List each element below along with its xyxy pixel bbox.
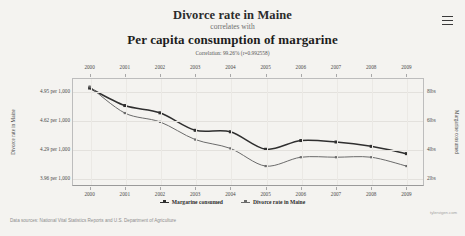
y-axis-right-labels: 8lbs6lbs4lbs2lbs bbox=[427, 78, 451, 186]
x-axis-tick bbox=[301, 74, 302, 77]
x-axis-tick bbox=[160, 74, 161, 77]
x-axis-label: 2003 bbox=[190, 64, 200, 70]
legend-label: Margarine consumed bbox=[172, 199, 223, 205]
x-axis-label: 2002 bbox=[155, 64, 165, 70]
x-axis-label: 2000 bbox=[84, 64, 94, 70]
x-axis-tick bbox=[125, 74, 126, 77]
x-axis-tick bbox=[125, 187, 126, 190]
chart-page: Divorce rate in Maine correlates with Pe… bbox=[0, 0, 465, 236]
x-axis-tick bbox=[301, 187, 302, 190]
x-axis-tick bbox=[195, 187, 196, 190]
y-axis-left-tick-label: 4.29 per 1,000 bbox=[40, 146, 70, 152]
chart-title-block: Divorce rate in Maine correlates with Pe… bbox=[0, 8, 465, 57]
site-brand-label: tylervigen.com bbox=[430, 210, 457, 215]
chart-title-connector: correlates with bbox=[0, 22, 465, 32]
x-axis-tick bbox=[160, 187, 161, 190]
y-axis-left-tick-label: 4.95 per 1,000 bbox=[40, 88, 70, 94]
x-axis-label: 2005 bbox=[260, 64, 270, 70]
legend-dot bbox=[163, 200, 166, 203]
x-axis-label: 2009 bbox=[401, 191, 411, 197]
x-axis-tick bbox=[371, 187, 372, 190]
gridline-vertical bbox=[161, 79, 162, 185]
x-axis-tick bbox=[230, 74, 231, 77]
legend-label: Divorce rate in Maine bbox=[253, 199, 305, 205]
legend-item[interactable]: Margarine consumed bbox=[160, 199, 223, 205]
data-source-note: Data sources: National Vital Statistics … bbox=[10, 218, 176, 223]
x-axis-label: 2008 bbox=[366, 64, 376, 70]
x-axis-tick bbox=[371, 74, 372, 77]
x-axis-label: 2000 bbox=[84, 191, 94, 197]
chart-title-secondary: Per capita consumption of margarine bbox=[0, 32, 465, 47]
x-axis-label: 2003 bbox=[190, 191, 200, 197]
gridline-vertical bbox=[267, 79, 268, 185]
x-axis-top: 2000200120022003200420052006200720082009 bbox=[72, 64, 424, 78]
x-axis-label: 2004 bbox=[225, 191, 235, 197]
gridline-vertical bbox=[231, 79, 232, 185]
gridline-vertical bbox=[196, 79, 197, 185]
x-axis-tick bbox=[406, 187, 407, 190]
x-axis-label: 2007 bbox=[331, 191, 341, 197]
x-axis-label: 2009 bbox=[401, 64, 411, 70]
plot-area bbox=[72, 78, 424, 186]
y-axis-right-tick-label: 6lbs bbox=[427, 117, 436, 123]
x-axis-tick bbox=[195, 74, 196, 77]
y-axis-left-title: Divorce rate in Maine bbox=[8, 78, 18, 186]
y-axis-left-title-text: Divorce rate in Maine bbox=[10, 109, 16, 155]
x-axis-tick bbox=[90, 74, 91, 77]
y-axis-right-tick-label: 4lbs bbox=[427, 146, 436, 152]
x-axis-label: 2005 bbox=[260, 191, 270, 197]
gridline-vertical bbox=[337, 79, 338, 185]
y-axis-left-tick-label: 4.62 per 1,000 bbox=[40, 117, 70, 123]
y-axis-right-tick-label: 8lbs bbox=[427, 88, 436, 94]
x-axis-tick bbox=[336, 187, 337, 190]
gridline-vertical bbox=[126, 79, 127, 185]
x-axis-bottom: 2000200120022003200420052006200720082009 bbox=[72, 187, 424, 199]
gridline-vertical bbox=[372, 79, 373, 185]
chart-legend: Margarine consumedDivorce rate in Maine bbox=[0, 199, 465, 205]
legend-marker-icon bbox=[241, 200, 250, 205]
x-axis-tick bbox=[266, 187, 267, 190]
gridline-vertical bbox=[302, 79, 303, 185]
x-axis-label: 2002 bbox=[155, 191, 165, 197]
x-axis-label: 2004 bbox=[225, 64, 235, 70]
plot-frame bbox=[72, 78, 424, 186]
y-axis-left-tick-label: 3.96 per 1,000 bbox=[40, 175, 70, 181]
x-axis-tick bbox=[90, 187, 91, 190]
x-axis-tick bbox=[406, 74, 407, 77]
x-axis-label: 2008 bbox=[366, 191, 376, 197]
legend-dot bbox=[244, 200, 247, 203]
chart-title-primary: Divorce rate in Maine bbox=[0, 8, 465, 22]
gridline-vertical bbox=[91, 79, 92, 185]
y-axis-right-title: Margarine consumed bbox=[452, 78, 462, 186]
gridline-vertical bbox=[407, 79, 408, 185]
x-axis-label: 2006 bbox=[296, 191, 306, 197]
x-axis-label: 2001 bbox=[120, 191, 130, 197]
y-axis-right-tick-label: 2lbs bbox=[427, 175, 436, 181]
x-axis-label: 2007 bbox=[331, 64, 341, 70]
legend-item[interactable]: Divorce rate in Maine bbox=[241, 199, 305, 205]
legend-marker-icon bbox=[160, 200, 169, 205]
x-axis-tick bbox=[336, 74, 337, 77]
y-axis-left-labels: 4.95 per 1,0004.62 per 1,0004.29 per 1,0… bbox=[22, 78, 70, 186]
correlation-label: Correlation: 99.26% (r=0.992558) bbox=[0, 50, 465, 57]
y-axis-right-title-text: Margarine consumed bbox=[454, 110, 460, 154]
x-axis-label: 2006 bbox=[296, 64, 306, 70]
x-axis-tick bbox=[230, 187, 231, 190]
x-axis-tick bbox=[266, 74, 267, 77]
x-axis-label: 2001 bbox=[120, 64, 130, 70]
